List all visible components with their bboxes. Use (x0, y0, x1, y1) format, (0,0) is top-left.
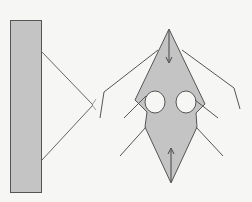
triangle-fragment (92, 99, 96, 110)
guide-line-left-inner-lower (120, 127, 146, 156)
rectangle-panel (11, 21, 42, 193)
diagram-canvas (0, 0, 252, 202)
guide-line-right-inner-lower (196, 127, 223, 156)
hole-left (145, 91, 165, 113)
hole-right (176, 91, 196, 113)
triangle (41, 51, 93, 160)
